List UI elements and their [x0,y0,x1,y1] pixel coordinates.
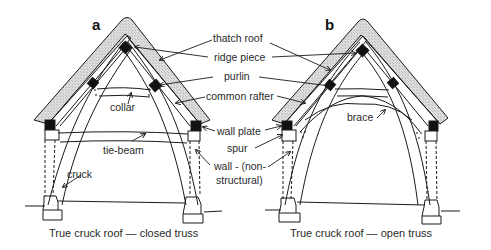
label-thatch-roof: thatch roof [213,32,263,44]
label-collar: collar [110,101,135,113]
label-wall-plate: wall plate [217,125,261,137]
footing-a-right [183,197,203,223]
label-spur: spur [227,142,247,154]
ridge-piece-b [356,44,369,57]
caption-panel-a: True cruck roof — closed truss [49,227,198,239]
label-cruck: cruck [67,168,92,180]
wall-plate-b-right [429,121,438,131]
footing-a-left [43,196,62,220]
label-brace: brace [347,111,373,123]
label-purlin: purlin [224,70,250,82]
panel-a-closed-truss [25,18,222,224]
wall-a-left [45,140,55,196]
wall-plate-b-left [282,121,292,130]
label-tie-beam: tie-beam [103,144,144,156]
label-ridge-piece: ridge piece [214,51,265,63]
wall-plate-a-right [191,121,201,131]
footing-b-left [279,198,300,222]
label-wall-non-structural-2: structural) [216,174,263,186]
caption-panel-b: True cruck roof — open truss [290,227,432,239]
panel-letter-a: a [92,16,100,33]
thatch-roof-b [272,19,448,124]
wall-plate-a-left [45,120,55,130]
panel-letter-b: b [325,16,334,33]
label-common-rafter: common rafter [206,90,274,102]
footing-b-right [422,200,441,224]
label-wall-non-structural-1: wall - (non- [214,160,266,172]
